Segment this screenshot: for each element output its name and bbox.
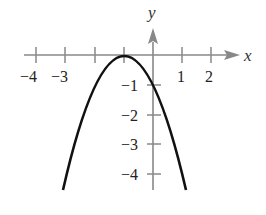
x-tick-label: −4 xyxy=(20,68,37,85)
x-tick-label: −3 xyxy=(51,68,68,85)
y-axis: −1 −2 −3 −4 y xyxy=(121,3,161,190)
x-tick-label: 1 xyxy=(177,68,185,85)
y-tick-label: −4 xyxy=(121,166,138,183)
y-tick-label: −3 xyxy=(121,136,138,153)
x-tick-label: 2 xyxy=(205,68,213,85)
parabola-graph: −4 −3 1 2 x −1 −2 −3 −4 y xyxy=(0,0,266,215)
x-axis-label: x xyxy=(243,46,252,65)
y-tick-label: −1 xyxy=(121,77,138,94)
y-axis-label: y xyxy=(146,3,156,22)
y-axis-arrow-icon xyxy=(148,28,158,44)
y-tick-label: −2 xyxy=(121,107,138,124)
